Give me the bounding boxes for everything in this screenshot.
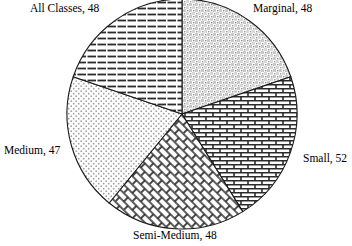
- pie-label-medium: Medium, 47: [4, 144, 60, 157]
- pie-slices: [67, 0, 297, 229]
- pie-label-semi-medium: Semi-Medium, 48: [133, 229, 217, 242]
- pie-label-all-classes: All Classes, 48: [30, 2, 99, 15]
- pie-label-small: Small, 52: [303, 152, 347, 165]
- pie-chart-figure: All Classes, 48 Marginal, 48 Small, 52 S…: [0, 0, 352, 246]
- pie-chart-svg: [0, 0, 352, 246]
- pie-label-marginal: Marginal, 48: [253, 2, 312, 15]
